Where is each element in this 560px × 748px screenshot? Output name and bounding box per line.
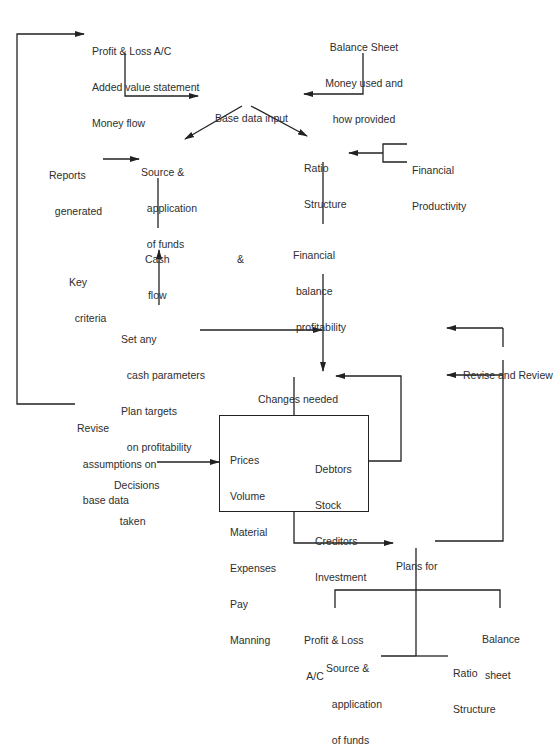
text-line: Financial [293,249,346,261]
text-line: Set any [121,333,205,345]
node-financial-balance: Financial balance profitability [293,225,346,357]
text-line: cash parameters [121,369,205,381]
text-line: application [326,698,382,710]
text-line: & [237,253,249,265]
node-plan-source-application: Source & application of funds [326,638,382,748]
node-revise-and-review: Revise and Review [463,345,553,405]
text-line: Revise and Review [463,369,553,381]
text-line: Changes needed [258,393,338,405]
text-line: Financial [412,164,466,176]
text-line: Money flow [92,117,199,129]
text-line: Manning [230,634,276,646]
text-line: Revise [77,422,156,434]
text-line: Debtors [315,463,366,475]
node-decision-box-right: Debtors Stock Creditors Investment [315,439,366,607]
text-line: Key [69,276,106,288]
node-balance-sheet-top: Balance Sheet Money used and how provide… [321,17,407,149]
text-line: criteria [69,312,106,324]
text-line: profitability [293,321,346,333]
text-line: application [141,202,197,214]
node-decision-box-left: Prices Volume Material Expenses Pay Mann… [230,430,276,670]
text-line: Structure [453,703,496,715]
node-profit-loss-top: Profit & Loss A/C Added value statement … [92,21,199,153]
node-plans-for: Plans for [396,536,437,596]
text-line: Stock [315,499,366,511]
text-line: Plans for [396,560,437,572]
text-line: Investment [315,571,366,583]
node-reports-generated: Reports generated [49,145,102,241]
node-decisions-taken: Decisions taken [114,455,160,551]
text-line: Source & [141,166,197,178]
text-line: Creditors [315,535,366,547]
text-line: Added value statement [92,81,199,93]
node-ampersand: & [237,229,249,289]
text-line: balance [293,285,346,297]
text-line: taken [114,515,160,527]
node-key-criteria: Key criteria [69,252,106,348]
text-line: Ratio [453,667,496,679]
text-line: Structure [304,198,347,210]
text-line: Balance Sheet [321,41,407,53]
text-line: Ratio [304,162,347,174]
node-changes-needed: Changes needed [258,369,338,429]
node-ratio-structure: Ratio Structure [304,138,347,234]
text-line: how provided [321,113,407,125]
text-line: Material [230,526,276,538]
text-line: Volume [230,490,276,502]
text-line: Money used and [321,77,407,89]
node-plan-ratio-structure: Ratio Structure [453,643,496,739]
text-line: flow [145,289,170,301]
text-line: Cash [145,253,170,265]
node-base-data-input: Base data input [215,88,288,148]
text-line: Prices [230,454,276,466]
text-line: Source & [326,662,382,674]
text-line: Profit & Loss A/C [92,45,199,57]
text-line: Pay [230,598,276,610]
text-line: Reports [49,169,102,181]
text-line: generated [49,205,102,217]
text-line: Base data input [215,112,288,124]
text-line: Decisions [114,479,160,491]
text-line: of funds [326,734,382,746]
text-line: Expenses [230,562,276,574]
text-line: Productivity [412,200,466,212]
node-financial-productivity: Financial Productivity [412,140,466,236]
